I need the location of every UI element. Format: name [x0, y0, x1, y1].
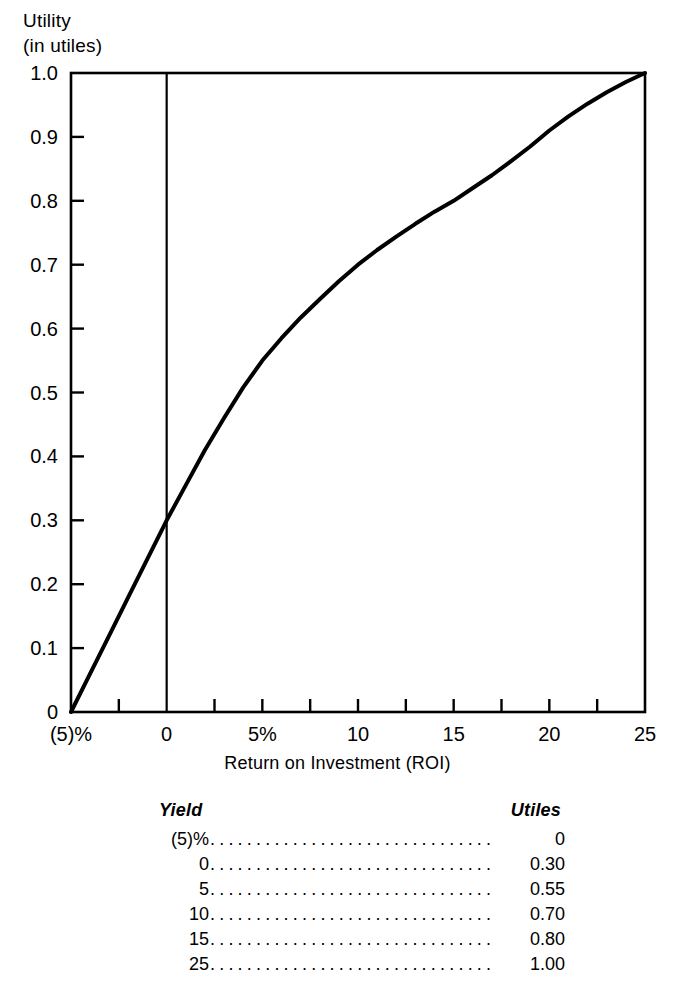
y-axis-tick-label-0: 0: [47, 701, 58, 723]
plot-frame: [71, 73, 645, 712]
utility-curve-line: [71, 73, 645, 712]
table-body: (5)%....................................…: [145, 827, 565, 977]
table-dot-leader: ........................................…: [210, 952, 494, 977]
table-row: 0.......................................…: [145, 852, 565, 877]
utility-curve-plot: 00.10.20.30.40.50.60.70.80.91.0(5)%05%10…: [0, 0, 675, 775]
table-cell-yield: 5: [145, 877, 209, 902]
table-dot-leader: ........................................…: [210, 827, 494, 852]
table-row: 5.......................................…: [145, 877, 565, 902]
table-dot-leader: ........................................…: [210, 852, 494, 877]
table-cell-yield: 15: [145, 927, 209, 952]
table-cell-utiles: 0.30: [497, 852, 565, 877]
table-row: 15......................................…: [145, 927, 565, 952]
x-axis-tick-label-1: 0: [161, 723, 172, 745]
x-axis-tick-label-6: 25: [634, 723, 656, 745]
y-axis-tick-label-4: 0.4: [30, 445, 58, 467]
table-cell-utiles: 0: [497, 827, 565, 852]
table-header-row: Yield Utiles: [145, 800, 565, 821]
y-axis-tick-label-2: 0.2: [30, 573, 58, 595]
y-axis-tick-label-10: 1.0: [30, 62, 58, 84]
table-header-utiles: Utiles: [511, 800, 561, 821]
utility-function-figure: Utility(in utiles) 00.10.20.30.40.50.60.…: [0, 0, 675, 990]
table-cell-utiles: 1.00: [497, 952, 565, 977]
table-cell-utiles: 0.55: [497, 877, 565, 902]
table-cell-utiles: 0.80: [497, 927, 565, 952]
table-cell-utiles: 0.70: [497, 902, 565, 927]
table-row: 10......................................…: [145, 902, 565, 927]
x-axis-tick-label-4: 15: [443, 723, 465, 745]
table-cell-yield: (5)%: [145, 827, 209, 852]
table-cell-yield: 10: [145, 902, 209, 927]
table-dot-leader: ........................................…: [210, 927, 494, 952]
table-row: (5)%....................................…: [145, 827, 565, 852]
x-axis-title: Return on Investment (ROI): [0, 753, 675, 774]
y-axis-tick-label-9: 0.9: [30, 126, 58, 148]
y-axis-tick-label-6: 0.6: [30, 318, 58, 340]
y-axis-tick-label-8: 0.8: [30, 190, 58, 212]
x-axis-tick-label-2: 5%: [248, 723, 277, 745]
y-axis-tick-label-3: 0.3: [30, 509, 58, 531]
table-dot-leader: ........................................…: [210, 877, 494, 902]
table-dot-leader: ........................................…: [210, 902, 494, 927]
table-cell-yield: 25: [145, 952, 209, 977]
y-axis-tick-label-7: 0.7: [30, 254, 58, 276]
yield-utiles-table: Yield Utiles (5)%.......................…: [145, 800, 565, 977]
table-header-yield: Yield: [159, 800, 202, 821]
x-axis-tick-label-3: 10: [347, 723, 369, 745]
y-axis-tick-label-5: 0.5: [30, 382, 58, 404]
table-cell-yield: 0: [145, 852, 209, 877]
x-axis-tick-label-5: 20: [538, 723, 560, 745]
x-axis-tick-label-0: (5)%: [50, 723, 92, 745]
y-axis-tick-label-1: 0.1: [30, 637, 58, 659]
table-row: 25......................................…: [145, 952, 565, 977]
